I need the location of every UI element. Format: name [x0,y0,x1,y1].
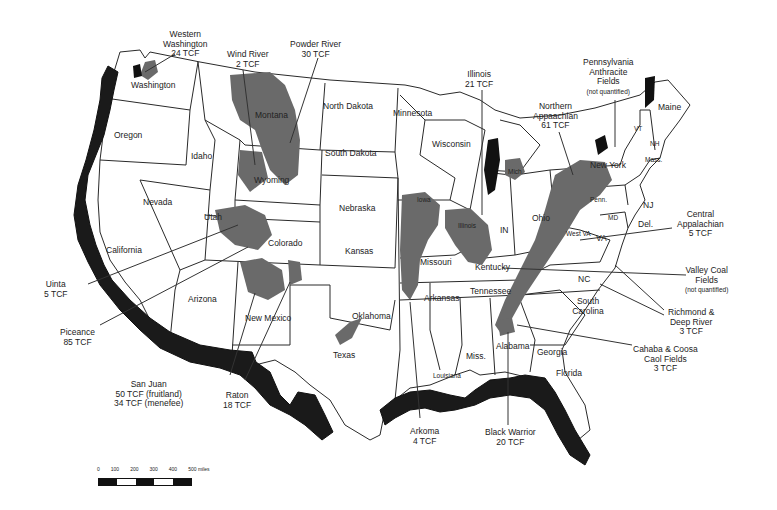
state-label-indiana: IN [500,225,509,235]
state-label-arkansas: Arkansas [424,293,459,303]
state-label-new-hampshire: NH [650,140,659,147]
basin-label-central-appalachian: Central Appalachian 5 TCF [677,210,724,239]
state-label-wyoming: Wyoming [254,175,289,185]
state-label-south-carolina: South Carolina [566,296,610,316]
basin-label-uinta: Uinta 5 TCF [44,280,67,299]
state-label-iowa: Iowa [417,196,431,203]
state-label-illinois: Illinois [458,222,476,229]
state-label-pennsylvania: Penn. [590,196,607,203]
basin-label-black-warrior: Black Warrior 20 TCF [485,428,536,447]
state-label-oregon: Oregon [114,130,142,140]
scale-tick: 0 [97,466,100,472]
basin-label-san-juan: San Juan 50 TCF (fruitland) 34 TCF (mene… [114,380,183,409]
state-label-vermont: VT [634,125,642,132]
basin-label-pa-anthracite: Pennsylvania Anthracite Fields (not quan… [583,58,634,96]
state-label-wisconsin: Wisconsin [432,139,471,149]
scale-tick: 300 [149,466,157,472]
state-label-new-mexico: New Mexico [245,313,291,323]
basin-label-powder-river: Powder River 30 TCF [290,40,341,59]
state-label-tennessee: Tennessee [470,286,511,296]
state-label-delaware: Del. [638,219,653,229]
state-label-texas: Texas [333,350,355,360]
state-label-new-york: New York [590,160,626,170]
state-label-north-carolina: NC [578,274,590,284]
state-label-arizona: Arizona [188,294,217,304]
state-label-colorado: Colorado [268,238,303,248]
state-label-maine: Maine [658,102,681,112]
scale-bar-labels: 0 100 200 300 400 500 miles [97,466,210,472]
basin-label-piceance: Piceance 85 TCF [60,328,95,347]
scale-tick: 200 [130,466,138,472]
state-label-louisiana: Louisiana [433,372,461,379]
basin-label-cahaba-coosa: Cahaba & Coosa Caol Fields 3 TCF [633,345,698,374]
state-label-massachusetts: Mass. [645,156,662,163]
state-label-kentucky: Kentucky [475,262,510,272]
state-label-nebraska: Nebraska [339,203,375,213]
state-label-florida: Florida [556,368,582,378]
state-label-idaho: Idaho [191,151,212,161]
basin-label-northern-appalachian: Northern Appaachian 61 TCF [533,102,578,131]
basin-label-western-washington: Western Washington 24 TCF [163,30,208,59]
basin-label-wind-river: Wind River 2 TCF [227,50,269,69]
map-canvas [0,0,777,510]
state-label-west-virginia: West VA [566,230,591,237]
state-label-california: California [106,245,142,255]
state-label-north-dakota: North Dakota [323,101,373,111]
scale-bar [98,478,192,486]
state-label-michigan: Mich. [508,168,524,175]
scale-tick: 400 [169,466,177,472]
state-label-utah: Utah [204,212,222,222]
state-label-south-dakota: South Dakota [325,148,377,158]
basin-label-richmond-deep-river: Richmond & Deep River 3 TCF [668,308,714,337]
state-label-minnesota: Minnesota [393,108,432,118]
basin-label-arkoma: Arkoma 4 TCF [410,427,439,446]
state-label-alabama: Alabama [496,341,530,351]
state-label-virginia: VA [596,233,607,243]
state-label-ohio: Ohio [532,213,550,223]
state-label-washington: Washington [131,80,176,90]
state-label-nevada: Nevada [143,197,172,207]
state-label-missouri: Missouri [420,257,452,267]
basin-label-raton: Raton 18 TCF [223,391,251,410]
basin-label-illinois: Illinois 21 TCF [465,70,493,89]
state-label-kansas: Kansas [345,246,373,256]
state-label-oklahoma: Oklahoma [352,311,391,321]
state-label-montana: Montana [255,110,288,120]
state-label-georgia: Georgia [537,347,567,357]
state-label-maryland: MD [608,214,618,221]
state-label-mississippi: Miss. [466,351,486,361]
state-label-new-jersey: NJ [643,200,653,210]
basin-label-valley-coal-fields: Valley Coal Fields (not quantified) [685,266,728,295]
scale-tick: 500 miles [188,466,209,472]
scale-tick: 100 [111,466,119,472]
